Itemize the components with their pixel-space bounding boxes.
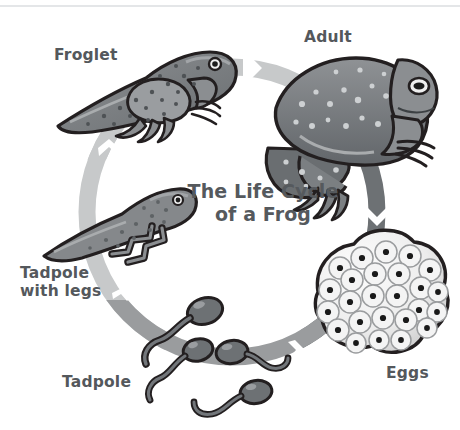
page-title: The Life Cycle of a Frog (178, 180, 348, 226)
stage-label-adult: Adult (304, 28, 352, 46)
stage-label-eggs: Eggs (386, 364, 429, 382)
stage-label-tadpole: Tadpole (62, 373, 131, 391)
tadpole-with-legs-illustration (44, 189, 196, 262)
egg-cluster-illustration (315, 230, 448, 353)
tadpole-4 (194, 378, 274, 414)
stage-label-froglet: Froglet (54, 46, 118, 64)
stage-label-tadpole-with-legs: Tadpole with legs (20, 264, 101, 301)
froglet-illustration (58, 52, 236, 142)
life-cycle-poster: The Life Cycle of a Frog Froglet Adult E… (0, 0, 460, 430)
